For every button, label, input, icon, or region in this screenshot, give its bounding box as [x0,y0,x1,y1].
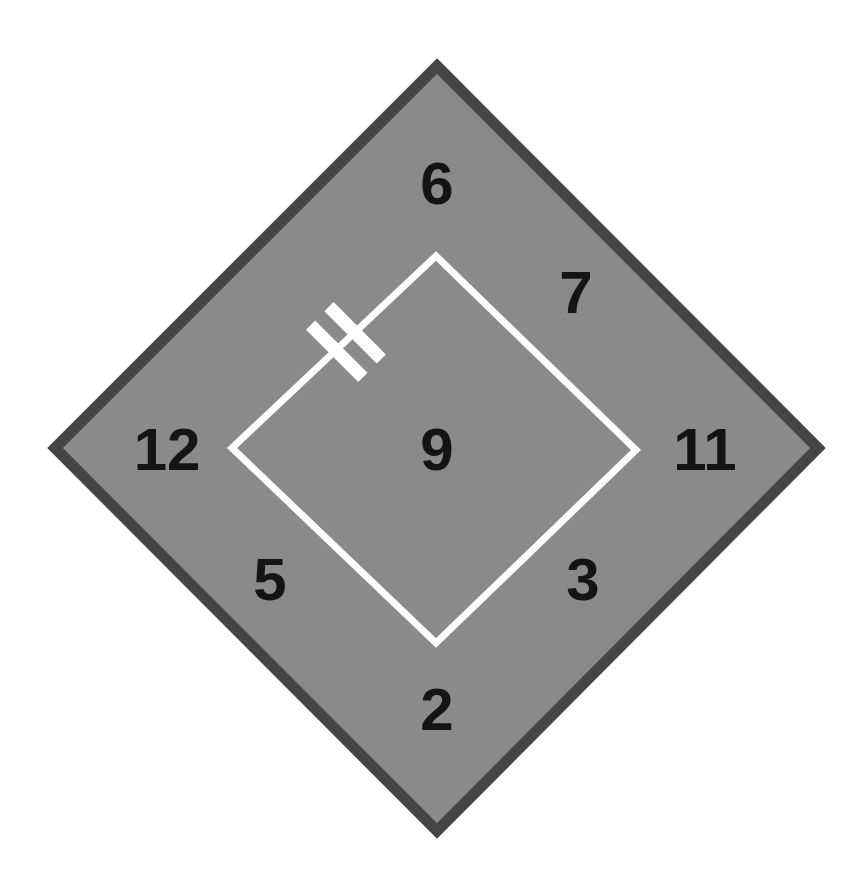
label-5: 5 [253,550,286,610]
label-7: 7 [559,263,592,323]
label-11: 11 [673,420,736,480]
label-2: 2 [420,680,453,740]
label-9: 9 [420,420,453,480]
label-12: 12 [134,420,201,480]
label-6: 6 [420,154,453,214]
label-3: 3 [566,550,599,610]
figure-canvas: 6 7 12 11 9 5 3 2 [0,0,867,877]
